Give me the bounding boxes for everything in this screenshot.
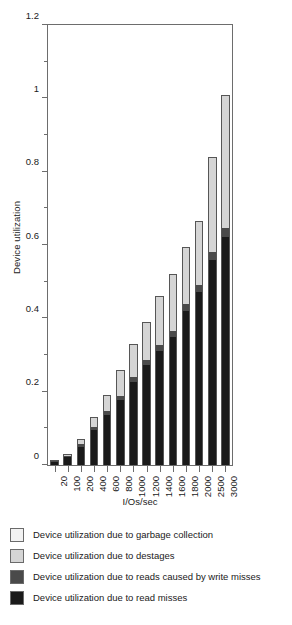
x-tick-label: 2000	[203, 476, 213, 497]
bar-segment	[155, 351, 164, 465]
y-tick-minor	[44, 207, 48, 208]
bar[interactable]	[77, 439, 86, 465]
x-tick	[81, 465, 82, 472]
bar[interactable]	[142, 322, 151, 465]
bar-segment	[208, 260, 217, 465]
bar-segment	[221, 95, 230, 228]
bar[interactable]	[169, 274, 178, 465]
x-tick-label: 100	[72, 476, 82, 492]
y-tick-major	[42, 171, 48, 172]
y-tick-label: 1.2	[26, 11, 39, 21]
x-tick	[120, 465, 121, 472]
bar-segment	[116, 400, 125, 465]
legend-swatch	[10, 591, 24, 605]
x-tick-label: 1200	[151, 476, 161, 497]
x-tick-label: 400	[98, 476, 108, 492]
y-tick-major	[42, 391, 48, 392]
bar[interactable]	[129, 344, 138, 465]
chart-area: Device utilization 00.20.40.60.811.2 201…	[0, 0, 292, 515]
bar[interactable]	[195, 221, 204, 465]
legend-item[interactable]: Device utilization due to read misses	[10, 587, 292, 608]
bar-segment	[208, 157, 217, 252]
bar-segment	[77, 447, 86, 465]
plot-frame: 00.20.40.60.811.2 2010020040060080010001…	[47, 24, 233, 466]
x-tick	[68, 465, 69, 472]
y-tick-label: 0.6	[26, 231, 39, 241]
legend-label: Device utilization due to reads caused b…	[33, 572, 261, 582]
bar-segment	[195, 292, 204, 465]
x-tick-label: 200	[85, 476, 95, 492]
bar-segment	[90, 430, 99, 465]
x-tick-label: 3000	[229, 476, 239, 497]
bar-segment	[155, 296, 164, 345]
x-axis-title: I/Os/sec	[47, 496, 233, 507]
y-tick-minor	[44, 281, 48, 282]
bar-segment	[129, 382, 138, 465]
chart-legend: Device utilization due to garbage collec…	[10, 524, 292, 608]
y-tick-label: 1	[34, 84, 39, 94]
bar-segment	[195, 285, 204, 292]
bar[interactable]	[63, 454, 72, 465]
y-tick-label: 0.4	[26, 304, 39, 314]
bar-segment	[182, 247, 191, 305]
bar-segment	[116, 370, 125, 396]
bar[interactable]	[116, 370, 125, 465]
legend-item[interactable]: Device utilization due to reads caused b…	[10, 566, 292, 587]
x-tick	[147, 465, 148, 472]
x-tick	[199, 465, 200, 472]
x-tick	[186, 465, 187, 472]
bar[interactable]	[208, 157, 217, 465]
caption-fragment	[0, 612, 292, 625]
legend-item[interactable]: Device utilization due to destages	[10, 545, 292, 566]
bar-segment	[142, 365, 151, 465]
x-tick	[133, 465, 134, 472]
bar[interactable]	[103, 395, 112, 465]
bar-segment	[195, 221, 204, 285]
bar-segment	[50, 462, 59, 465]
bar-segment	[182, 311, 191, 465]
bar-segment	[129, 344, 138, 377]
x-tick	[55, 465, 56, 472]
x-tick	[107, 465, 108, 472]
x-tick	[173, 465, 174, 472]
bar[interactable]	[50, 460, 59, 465]
legend-item[interactable]: Device utilization due to garbage collec…	[10, 524, 292, 545]
y-tick-minor	[44, 354, 48, 355]
y-tick-label: 0	[34, 451, 39, 461]
y-tick-minor	[44, 134, 48, 135]
bar-segment	[169, 274, 178, 330]
y-tick-label: 0.2	[26, 377, 39, 387]
bar-segment	[103, 415, 112, 465]
y-tick-major	[42, 464, 48, 465]
y-axis-title: Device utilization	[11, 178, 22, 298]
x-tick-label: 1400	[164, 476, 174, 497]
bar-segment	[63, 457, 72, 465]
figure: Device utilization 00.20.40.60.811.2 201…	[0, 0, 292, 625]
y-tick-minor	[44, 427, 48, 428]
y-tick-major	[42, 24, 48, 25]
x-tick	[225, 465, 226, 472]
bar[interactable]	[221, 95, 230, 465]
y-tick-minor	[44, 61, 48, 62]
bar-segment	[90, 417, 99, 427]
legend-label: Device utilization due to destages	[33, 551, 175, 561]
x-tick-label: 20	[59, 476, 69, 487]
bar[interactable]	[182, 247, 191, 465]
x-tick-label: 2500	[216, 476, 226, 497]
x-tick	[160, 465, 161, 472]
legend-swatch	[10, 549, 24, 563]
x-tick-label: 1000	[137, 476, 147, 497]
y-tick-major	[42, 97, 48, 98]
legend-swatch	[10, 528, 24, 542]
x-tick	[94, 465, 95, 472]
y-tick-major	[42, 244, 48, 245]
x-tick-label: 1800	[190, 476, 200, 497]
bar[interactable]	[90, 417, 99, 465]
bar-segment	[142, 322, 151, 360]
legend-swatch	[10, 570, 24, 584]
bar[interactable]	[155, 296, 164, 465]
y-tick-major	[42, 317, 48, 318]
x-tick-label: 1600	[177, 476, 187, 497]
x-tick-label: 800	[124, 476, 134, 492]
y-tick-label: 0.8	[26, 157, 39, 167]
